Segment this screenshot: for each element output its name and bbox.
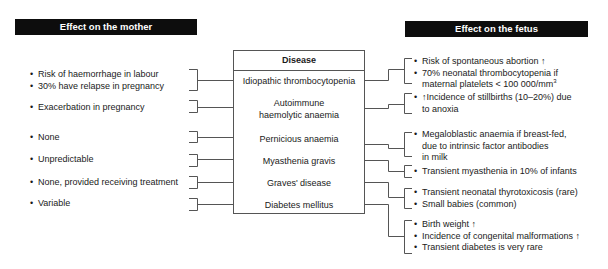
mother-effect-text: Unpredictable: [38, 154, 94, 164]
fetus-effect-text: in milk: [422, 152, 448, 162]
fetus-effect-diabetes: •Birth weight ↑ •Incidence of congenital…: [414, 219, 580, 254]
connector-fetus-itp: [365, 59, 412, 84]
disease-box: Disease Idiopathic thrombocytopenia Auto…: [233, 50, 365, 214]
bullet-icon: •: [414, 92, 422, 104]
bullet-icon: •: [414, 56, 422, 68]
bullet-icon: •: [30, 80, 38, 92]
disease-graves: Graves' disease: [234, 177, 364, 189]
bullet-icon: •: [30, 197, 38, 209]
fetus-effect-text: Transient diabetes is very rare: [422, 242, 543, 252]
fetus-effect-itp: •Risk of spontaneous abortion ↑ •70% neo…: [414, 56, 558, 91]
mother-effect-itp: •Risk of haemorrhage in labour •30% have…: [30, 68, 164, 92]
bullet-icon: •: [30, 101, 38, 113]
mother-effect-myasthenia: •Unpredictable: [30, 153, 94, 165]
connector-fetus-myasthenia: [365, 161, 412, 178]
disease-aiha-line1: Autoimmune: [234, 97, 364, 109]
mother-effect-diabetes: •Variable: [30, 197, 70, 209]
connector-fetus-diabetes: [365, 205, 412, 254]
mother-effect-pernicious: •None: [30, 131, 60, 143]
mother-effect-graves: •None, provided receiving treatment: [30, 176, 178, 188]
bullet-icon: •: [414, 199, 422, 211]
bullet-icon: •: [30, 68, 38, 80]
fetus-effect-text: to anoxia: [422, 104, 459, 114]
fetus-effect-myasthenia: •Transient myasthenia in 10% of infants: [414, 166, 577, 178]
mother-effect-text: None: [38, 132, 60, 142]
fetus-effect-text: ↑Incidence of stillbirths (10–20%) due: [422, 92, 572, 102]
disease-itp: Idiopathic thrombocytopenia: [234, 75, 364, 87]
disease-pernicious: Pernicious anaemia: [234, 133, 364, 145]
disease-aiha: Autoimmune haemolytic anaemia: [234, 97, 364, 121]
mother-effect-text: Risk of haemorrhage in labour: [38, 69, 159, 79]
fetus-effect-text: Risk of spontaneous abortion ↑: [422, 56, 546, 66]
bracket-mother-aiha: [189, 101, 233, 113]
fetus-effect-text: maternal platelets < 100 000/mm: [422, 79, 553, 89]
mother-effect-text: 30% have relapse in pregnancy: [38, 81, 164, 91]
fetus-effect-text: Megaloblastic anaemia if breast-fed,: [422, 129, 567, 139]
fetus-effect-text: Small babies (common): [422, 199, 517, 209]
bracket-mother-pernicious: [189, 132, 233, 143]
fetus-effect-aiha: •↑Incidence of stillbirths (10–20%) due …: [414, 92, 572, 115]
bracket-mother-myasthenia: [189, 155, 233, 167]
disease-box-title: Disease: [234, 51, 364, 71]
bullet-icon: •: [30, 153, 38, 165]
mother-effect-text: None, provided receiving treatment: [38, 177, 178, 187]
fetus-effect-text: Incidence of congenital malformations ↑: [422, 231, 580, 241]
mother-effect-text: Exacerbation in pregnancy: [38, 102, 145, 112]
bullet-icon: •: [30, 131, 38, 143]
disease-aiha-line2: haemolytic anaemia: [234, 109, 364, 121]
bullet-icon: •: [414, 166, 422, 178]
disease-diabetes: Diabetes mellitus: [234, 199, 364, 211]
mother-effect-text: Variable: [38, 198, 70, 208]
bracket-mother-diabetes: [189, 199, 233, 211]
fetus-effect-graves: •Transient neonatal thyrotoxicosis (rare…: [414, 187, 578, 210]
fetus-effect-text: Transient neonatal thyrotoxicosis (rare): [422, 187, 578, 197]
bullet-icon: •: [414, 219, 422, 231]
bullet-icon: •: [30, 176, 38, 188]
bullet-icon: •: [414, 68, 422, 80]
bracket-mother-graves: [189, 177, 233, 189]
connector-fetus-pernicious: [365, 133, 412, 157]
superscript: 3: [553, 78, 556, 84]
fetus-effect-text: Transient myasthenia in 10% of infants: [422, 166, 577, 176]
bullet-icon: •: [414, 187, 422, 199]
fetus-effect-pernicious: •Megaloblastic anaemia if breast-fed, du…: [414, 129, 567, 164]
fetus-effect-text: 70% neonatal thrombocytopenia if: [422, 68, 558, 78]
bullet-icon: •: [414, 242, 422, 254]
fetus-effect-text: Birth weight ↑: [422, 219, 476, 229]
bullet-icon: •: [414, 129, 422, 141]
bracket-mother-itp: [189, 70, 233, 91]
disease-myasthenia: Myasthenia gravis: [234, 155, 364, 167]
bullet-icon: •: [414, 231, 422, 243]
connector-fetus-aiha: [365, 94, 412, 114]
fetus-effect-text: due to intrinsic factor antibodies: [422, 141, 549, 151]
mother-effect-aiha: •Exacerbation in pregnancy: [30, 101, 145, 113]
